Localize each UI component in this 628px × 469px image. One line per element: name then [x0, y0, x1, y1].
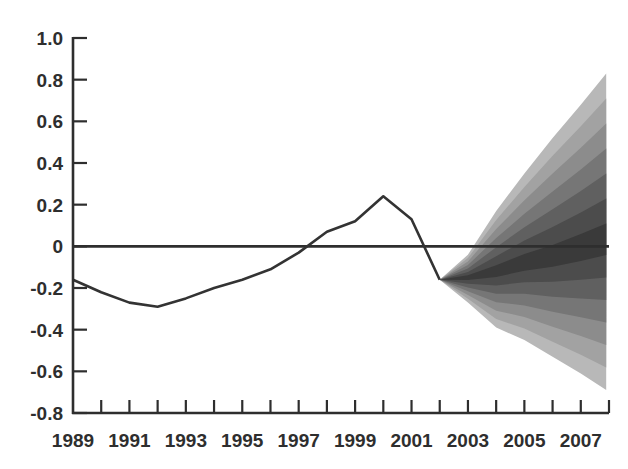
x-tick-label: 2001: [390, 430, 433, 451]
y-tick-label: -0.2: [30, 278, 63, 299]
y-tick-label: 0: [52, 236, 63, 257]
x-tick-label: 2007: [560, 430, 602, 451]
x-axis: 1989199119931995199719992001200320052007: [52, 400, 609, 451]
y-tick-label: 0.8: [37, 70, 63, 91]
fan-bands: [440, 73, 607, 390]
x-tick-label: 1997: [278, 430, 320, 451]
x-tick-label: 2005: [503, 430, 546, 451]
y-tick-label: -0.6: [30, 361, 63, 382]
historical-series-line: [73, 196, 440, 306]
y-tick-label: 0.4: [37, 153, 64, 174]
fan-chart: 1.00.80.60.40.20-0.2-0.4-0.6-0.8 1989199…: [0, 0, 628, 469]
y-tick-label: 0.2: [37, 195, 63, 216]
y-tick-label: -0.8: [30, 403, 63, 424]
x-tick-label: 1991: [108, 430, 151, 451]
x-tick-label: 2003: [447, 430, 489, 451]
y-tick-label: 0.6: [37, 111, 63, 132]
y-axis: 1.00.80.60.40.20-0.2-0.4-0.6-0.8: [30, 28, 87, 424]
y-tick-label: 1.0: [37, 28, 63, 49]
x-tick-label: 1989: [52, 430, 94, 451]
y-tick-label: -0.4: [30, 320, 63, 341]
x-tick-label: 1995: [221, 430, 264, 451]
x-tick-label: 1999: [334, 430, 376, 451]
x-tick-label: 1993: [165, 430, 207, 451]
